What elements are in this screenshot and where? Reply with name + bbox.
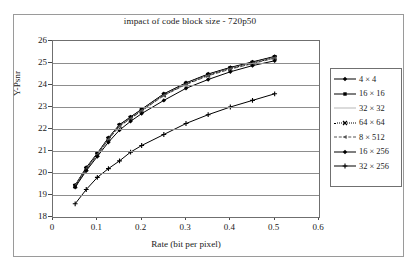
x-axis-title: Rate (bit per pixel) (52, 239, 320, 249)
gridline (53, 129, 319, 130)
data-point-marker (139, 143, 144, 148)
chart-title: impact of code block size - 720p50 (60, 16, 320, 26)
legend-item[interactable]: 16 × 256 (333, 145, 399, 160)
legend-item[interactable]: 4 × 4 (333, 72, 399, 87)
legend-swatch-icon (333, 102, 357, 114)
y-tick-label: 19 (25, 189, 47, 199)
series-line (75, 61, 274, 188)
data-point-marker (161, 132, 166, 137)
data-point-marker (343, 77, 347, 81)
legend-label: 32 × 256 (357, 162, 389, 171)
x-tick-label: 0.1 (83, 222, 109, 232)
y-tick-label: 23 (25, 101, 47, 111)
series-1616 (73, 55, 276, 187)
x-tick-label: 0.6 (305, 222, 331, 232)
y-tick-label: 21 (25, 145, 47, 155)
y-tick-label: 26 (25, 35, 47, 45)
gridline (53, 195, 319, 196)
series-line (75, 57, 274, 185)
series-line (75, 58, 274, 186)
legend-swatch-icon (333, 131, 357, 143)
y-tick-label: 20 (25, 167, 47, 177)
data-point-marker (184, 86, 188, 90)
series-line (75, 57, 274, 186)
data-point-marker (250, 98, 255, 103)
legend-swatch-icon (333, 160, 357, 172)
plot-area (52, 40, 320, 218)
legend-swatch-icon (333, 73, 357, 85)
legend: 4 × 416 × 1632 × 3264 × 648 × 51216 × 25… (330, 68, 402, 187)
legend-item[interactable]: 8 × 512 (333, 130, 399, 145)
chart-screenshot: impact of code block size - 720p50 Y-Psn… (0, 0, 419, 276)
data-point-marker (206, 112, 211, 117)
legend-item[interactable]: 16 × 16 (333, 87, 399, 102)
series-line (75, 56, 274, 185)
legend-swatch-icon (333, 117, 357, 129)
y-axis-title: Y-Psnr (12, 71, 22, 96)
gridline (53, 151, 319, 152)
gridline (53, 173, 319, 174)
data-point-marker (343, 121, 347, 125)
series-6464 (73, 56, 277, 188)
legend-swatch-icon (333, 146, 357, 158)
series-3232 (75, 57, 274, 185)
data-point-marker (343, 135, 347, 139)
x-tick-label: 0.5 (261, 222, 287, 232)
legend-label: 32 × 32 (357, 104, 385, 113)
legend-label: 16 × 256 (357, 147, 389, 156)
data-point-marker (184, 121, 189, 126)
legend-swatch-icon (333, 88, 357, 100)
legend-label: 64 × 64 (357, 118, 385, 127)
legend-item[interactable]: 32 × 256 (333, 159, 399, 174)
legend-item[interactable]: 64 × 64 (333, 116, 399, 131)
gridline (53, 85, 319, 86)
series-16256 (73, 59, 277, 190)
data-point-marker (272, 91, 277, 96)
x-tick-label: 0.2 (128, 222, 154, 232)
data-point-marker (343, 92, 346, 95)
x-tick-label: 0 (39, 222, 65, 232)
series-8512 (73, 56, 276, 189)
legend-label: 4 × 4 (357, 75, 376, 84)
legend-item[interactable]: 32 × 32 (333, 101, 399, 116)
data-point-marker (206, 77, 210, 81)
series-44 (73, 54, 277, 187)
data-point-marker (162, 98, 166, 102)
data-point-marker (343, 164, 348, 169)
gridline (53, 63, 319, 64)
y-tick-label: 22 (25, 123, 47, 133)
legend-label: 16 × 16 (357, 89, 385, 98)
legend-label: 8 × 512 (357, 133, 385, 142)
y-tick-label: 18 (25, 211, 47, 221)
series-line (75, 94, 274, 204)
x-tick-label: 0.4 (216, 222, 242, 232)
series-line (75, 58, 274, 186)
x-tick-label: 0.3 (172, 222, 198, 232)
y-tick-label: 25 (25, 57, 47, 67)
gridline (53, 107, 319, 108)
y-tick-label: 24 (25, 79, 47, 89)
data-point-marker (343, 150, 347, 154)
